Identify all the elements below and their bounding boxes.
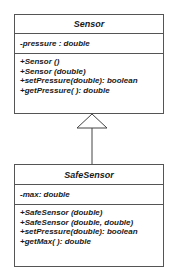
- operation-list: +SafeSensor (double) +SafeSensor (double…: [15, 205, 163, 246]
- operation: +Sensor (): [20, 57, 163, 67]
- class-sensor: Sensor -pressure : double +Sensor () +Se…: [14, 14, 164, 114]
- class-name: SafeSensor: [15, 165, 163, 185]
- attribute-list: -pressure : double: [15, 34, 163, 54]
- class-name: Sensor: [15, 15, 163, 34]
- operation: +getPressure( ): double: [20, 86, 163, 96]
- attribute: -pressure : double: [20, 34, 163, 54]
- generalization-arrow-icon: [77, 114, 107, 128]
- operation: +setPressure(double): boolean: [20, 76, 163, 86]
- class-safesensor: SafeSensor -max: double +SafeSensor (dou…: [14, 164, 164, 267]
- operation: +Sensor (double): [20, 67, 163, 77]
- operation: +SafeSensor (double, double): [20, 218, 163, 228]
- operation: +SafeSensor (double): [20, 208, 163, 218]
- attribute-list: -max: double: [15, 185, 163, 205]
- operation-list: +Sensor () +Sensor (double) +setPressure…: [15, 54, 163, 95]
- attribute: -max: double: [20, 185, 163, 205]
- operation: +getMax( ): double: [20, 237, 163, 247]
- operation: +setPressure(double): boolean: [20, 227, 163, 237]
